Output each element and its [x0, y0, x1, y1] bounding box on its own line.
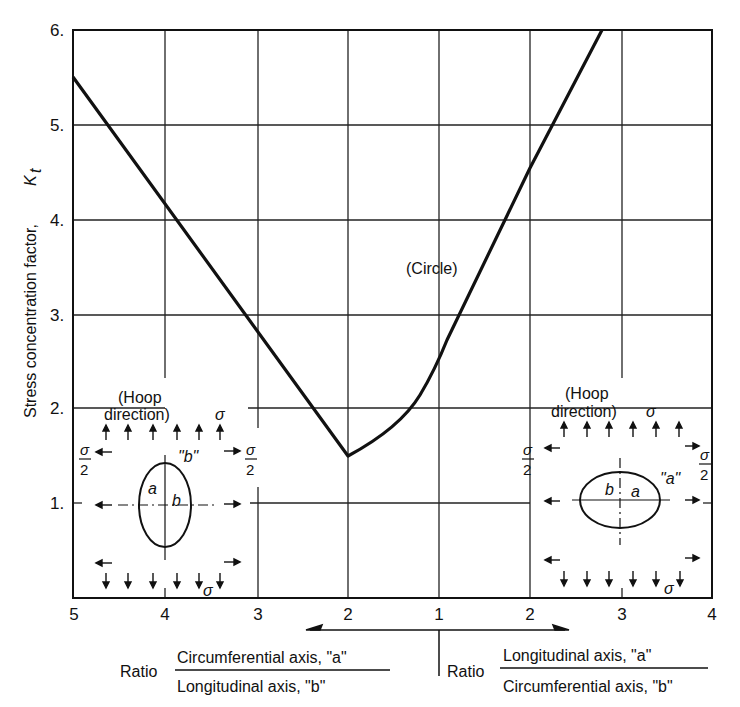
- svg-text:σ: σ: [80, 441, 90, 458]
- svg-text:Stress concentration factor,: Stress concentration factor,: [22, 224, 39, 418]
- y-tick-6: 6.: [50, 21, 64, 40]
- y-tick-3: 3.: [50, 306, 64, 325]
- svg-text:(Hoop: (Hoop: [118, 389, 162, 406]
- svg-text:2: 2: [246, 461, 254, 478]
- y-tick-5: 5.: [50, 116, 64, 135]
- svg-text:Ratio: Ratio: [447, 663, 484, 680]
- y-tick-4: 4.: [50, 211, 64, 230]
- y-tick-1: 1.: [50, 494, 64, 513]
- svg-text:direction): direction): [551, 403, 617, 420]
- svg-text:t: t: [27, 168, 44, 173]
- svg-text:σ: σ: [646, 403, 657, 420]
- svg-text:1: 1: [434, 605, 443, 624]
- svg-text:b: b: [605, 481, 614, 498]
- svg-text:Circumferential axis, "b": Circumferential axis, "b": [503, 678, 673, 695]
- svg-text:b: b: [172, 492, 181, 509]
- plot-frame: [73, 30, 712, 598]
- svg-text:2: 2: [525, 605, 534, 624]
- svg-text:σ: σ: [523, 441, 533, 458]
- svg-text:Longitudinal axis, "b": Longitudinal axis, "b": [177, 678, 325, 695]
- svg-text:Longitudinal axis, "a": Longitudinal axis, "a": [503, 647, 651, 664]
- svg-text:5: 5: [69, 605, 78, 624]
- svg-text:2: 2: [80, 461, 88, 478]
- svg-text:"b": "b": [178, 448, 200, 465]
- svg-text:σ: σ: [215, 406, 226, 423]
- right-inset-diagram: (Hoop direction) σ σ 2 σ 2 b a "a": [522, 385, 711, 597]
- svg-text:"a": "a": [660, 470, 682, 487]
- y-axis-ticks: 6. 5. 4. 3. 2. 1.: [50, 21, 64, 513]
- svg-text:σ: σ: [664, 580, 675, 597]
- svg-text:σ: σ: [246, 441, 256, 458]
- x-axis-label-left: Ratio Circumferential axis, "a" Longitud…: [120, 649, 390, 695]
- svg-text:3: 3: [617, 605, 626, 624]
- svg-text:4: 4: [160, 605, 169, 624]
- svg-text:σ: σ: [700, 446, 710, 463]
- svg-text:Ratio: Ratio: [120, 663, 157, 680]
- x-axis-ticks: 5 4 3 2 1 2 3 4: [69, 605, 716, 624]
- svg-text:direction): direction): [104, 406, 170, 423]
- y-tick-2: 2.: [50, 399, 64, 418]
- svg-text:2: 2: [343, 605, 352, 624]
- svg-text:2: 2: [523, 461, 531, 478]
- left-inset-diagram: (Hoop direction) σ σ 2 σ 2: [79, 389, 257, 599]
- svg-text:a: a: [631, 483, 640, 500]
- svg-text:σ: σ: [203, 582, 214, 599]
- svg-text:4: 4: [707, 605, 716, 624]
- svg-text:3: 3: [253, 605, 262, 624]
- side-arrows-icon: [545, 443, 699, 563]
- circle-annotation: (Circle): [406, 260, 458, 277]
- y-axis-label: Stress concentration factor, K t: [22, 168, 44, 418]
- tension-arrows-up-icon: [103, 425, 223, 440]
- side-arrows-icon: [96, 448, 240, 566]
- svg-text:(Hoop: (Hoop: [565, 385, 609, 402]
- tension-arrows-up-icon: [561, 422, 682, 437]
- svg-text:K: K: [22, 174, 39, 186]
- stress-concentration-chart: 6. 5. 4. 3. 2. 1. Stress concentration f…: [0, 0, 740, 707]
- x-axis-label-right: Ratio Longitudinal axis, "a" Circumferen…: [447, 647, 708, 695]
- svg-text:a: a: [148, 480, 157, 497]
- svg-text:Circumferential axis, "a": Circumferential axis, "a": [177, 649, 347, 666]
- svg-text:2: 2: [700, 466, 708, 483]
- grid: [73, 30, 712, 598]
